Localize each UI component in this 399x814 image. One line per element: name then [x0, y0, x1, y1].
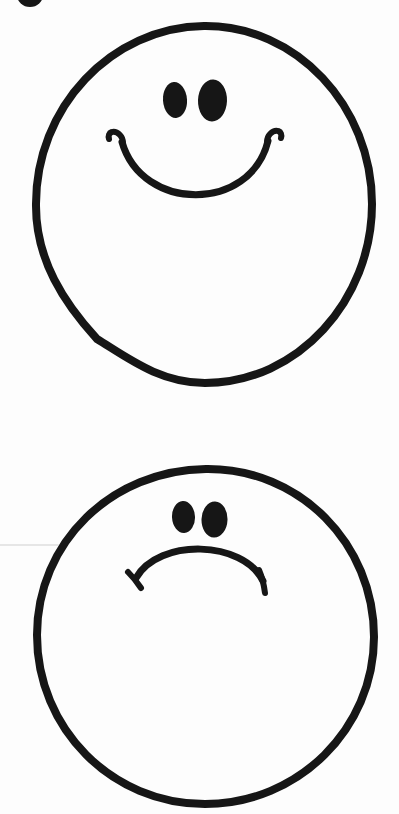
happy-face-left-eye	[162, 81, 188, 119]
corner-dot	[17, 0, 43, 7]
sad-face	[37, 469, 374, 804]
happy-face-smile-right-flick	[267, 131, 281, 142]
happy-face-right-eye	[197, 79, 227, 122]
sad-face-frown-right-tick	[259, 570, 265, 593]
sad-face-right-eye	[201, 501, 228, 538]
happy-face-outline	[36, 26, 372, 383]
happy-face	[36, 26, 372, 383]
sad-face-left-eye	[171, 500, 196, 533]
happy-face-smile-left-flick	[109, 132, 123, 143]
sad-face-frown	[136, 549, 263, 581]
faces-illustration	[0, 0, 399, 814]
happy-face-smile	[122, 141, 268, 195]
page	[0, 0, 399, 814]
